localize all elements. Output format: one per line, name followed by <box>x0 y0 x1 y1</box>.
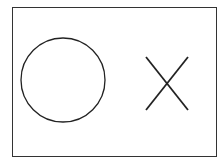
circle-shape <box>21 38 105 122</box>
x-mark-icon <box>146 57 188 110</box>
diagram-canvas <box>0 0 223 160</box>
